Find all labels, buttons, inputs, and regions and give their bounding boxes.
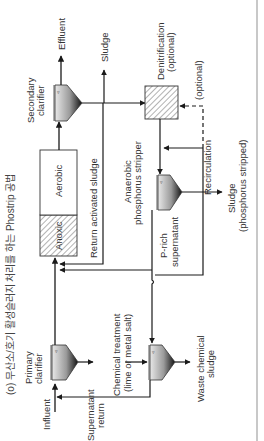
secondary-clarifier: ▿	[54, 85, 82, 121]
stripped-sludge-label-1: Sludge	[226, 183, 237, 213]
stripper-label-2: phosphorus stripper	[132, 141, 143, 225]
stripped-sludge-label-2: (phosphorus stripped)	[237, 140, 248, 232]
return-activated-sludge-label: Return activated sludge	[88, 158, 99, 258]
svg-text:▿: ▿	[55, 348, 58, 354]
phosphorus-stripper: ▿	[157, 175, 182, 210]
effluent-label: Effluent	[56, 18, 67, 50]
influent-label: Influent	[41, 398, 52, 430]
svg-text:▿: ▿	[57, 89, 60, 95]
p-rich-to-chem-line	[152, 275, 154, 343]
supernatant-return-label-2: return	[95, 403, 106, 428]
svg-text:▿: ▿	[160, 179, 163, 185]
supernatant-return-line	[57, 380, 150, 397]
figure-caption: (o) 무산소/호기 활성슬러지 처리를 하는 Phostrip 공법	[4, 174, 16, 395]
page-right-border	[256, 0, 258, 441]
denitrification-box	[145, 86, 178, 119]
svg-text:▿: ▿	[152, 349, 155, 355]
p-rich-label-1: P-rich	[158, 233, 169, 258]
primary-clarifier-label-2: clarifier	[33, 353, 44, 384]
phostrip-diagram: (o) 무산소/호기 활성슬러지 처리를 하는 Phostrip 공법 Infl…	[0, 0, 264, 441]
aerobic-label: Aerobic	[53, 165, 64, 197]
optional-line-label: (optional)	[193, 60, 204, 100]
chemical-treatment-clarifier: ▿	[149, 345, 175, 380]
p-rich-label-2: supernatant	[169, 216, 180, 267]
secondary-clarifier-label-2: clarifier	[35, 85, 46, 116]
primary-clarifier: ▿	[51, 345, 78, 380]
chemical-treatment-label-2: (lime or metal salt)	[122, 314, 133, 392]
waste-chemical-label-2: sludge	[205, 350, 216, 378]
recirculation-label: Recirculation	[202, 140, 213, 195]
sludge-top-label: Sludge	[99, 32, 110, 62]
optional-dashed-line	[180, 106, 203, 148]
denitrification-optional-label: (optional)	[165, 32, 176, 72]
anoxic-label: Anoxic	[53, 221, 64, 250]
chemical-treatment-label-1: Chemical treatment	[111, 313, 122, 396]
